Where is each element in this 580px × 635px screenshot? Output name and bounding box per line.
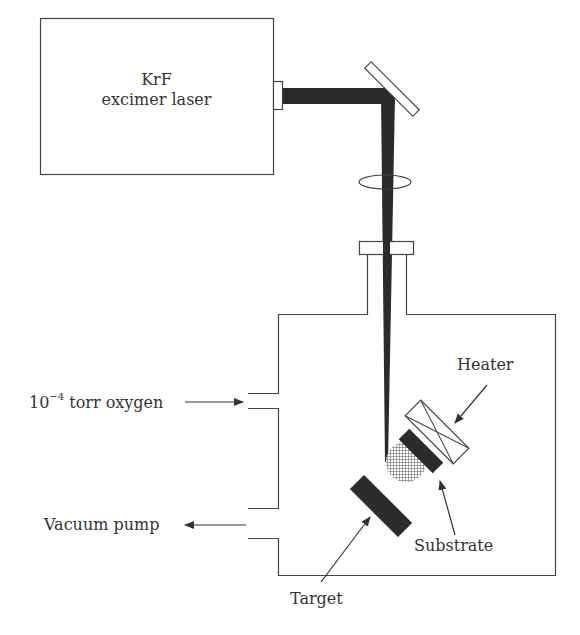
substrate-arrow [440,481,455,535]
laser-beam-vertical [381,96,395,462]
laser-label-line1: KrF [40,72,273,88]
oxygen-rest: torr oxygen [64,393,163,412]
laser-beam-horizontal [283,88,395,104]
oxygen-label: 10−4 torr oxygen [29,395,163,411]
heater-label: Heater [457,357,514,373]
beam-through-window [383,241,390,255]
oxygen-exponent: −4 [49,391,64,402]
beam-over-lens [382,176,392,189]
target-label: Target [290,591,343,607]
target [350,475,412,537]
substrate-label: Substrate [414,538,493,554]
laser-label-line2: excimer laser [40,92,273,108]
oxygen-base: 10 [29,393,49,412]
vacuum-pump-label: Vacuum pump [44,517,159,533]
heater-arrow [455,385,487,423]
laser-label: KrF excimer laser [40,72,273,108]
target-arrow [321,517,370,582]
laser-output-port [274,82,283,110]
